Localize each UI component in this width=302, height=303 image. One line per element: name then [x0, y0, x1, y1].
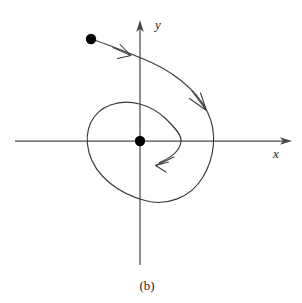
y-axis-label: y [153, 17, 161, 32]
direction-arrow-3-icon [156, 157, 175, 172]
figure-caption: (b) [139, 278, 154, 293]
axes-group [15, 20, 292, 265]
phase-portrait-figure: y x (b) [0, 0, 302, 303]
equilibrium-point [135, 136, 145, 146]
phase-portrait-svg: y x (b) [0, 0, 302, 303]
x-axis-label: x [272, 146, 279, 161]
trajectory-group [87, 39, 213, 202]
initial-condition-point [86, 34, 96, 44]
direction-arrow-1-icon [113, 45, 131, 59]
trajectory-curve [87, 39, 213, 202]
direction-arrow-2-icon [190, 91, 207, 111]
